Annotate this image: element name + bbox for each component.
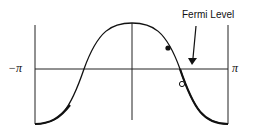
fermi-level-label: Fermi Level [182, 9, 234, 20]
open-state-dot [179, 81, 184, 86]
fermi-arrow-shaft [193, 26, 196, 58]
fermi-arrow-head-icon [188, 58, 197, 65]
left-k-label: −π [8, 61, 22, 76]
filled-state-dot [165, 45, 170, 50]
right-k-label: π [232, 61, 238, 76]
